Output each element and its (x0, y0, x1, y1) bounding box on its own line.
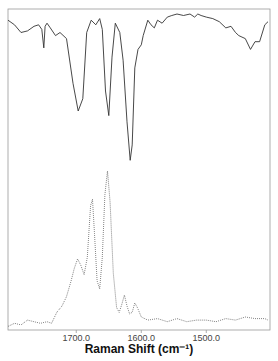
plot-frame (8, 9, 270, 330)
x-tick-label: 1500.0 (193, 333, 221, 343)
x-axis-title: Raman Shift (cm⁻¹) (85, 342, 194, 356)
lower-spectrum-line (8, 171, 268, 326)
upper-spectrum-line (8, 14, 268, 160)
raman-spectrum-chart: 1700.01600.01500.0 Raman Shift (cm⁻¹) (0, 0, 278, 361)
